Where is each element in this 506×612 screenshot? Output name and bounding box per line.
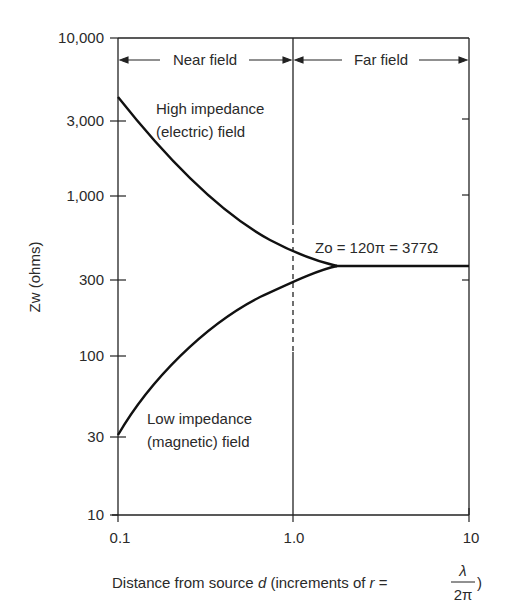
y-axis-label: Zw (ohms) xyxy=(26,242,43,313)
low-impedance-label-2: (magnetic) field xyxy=(147,433,250,450)
fraction-numerator: λ xyxy=(458,562,466,579)
y-tick-10: 10 xyxy=(87,506,104,523)
x-tick-1-0: 1.0 xyxy=(284,529,305,546)
low-impedance-label-1: Low impedance xyxy=(147,410,252,427)
svg-text:Distance from source d (increm: Distance from source d (increments of r … xyxy=(112,574,388,591)
far-field-label: Far field xyxy=(354,51,408,68)
arrow-left-icon xyxy=(295,57,303,63)
x-tick-10: 10 xyxy=(463,529,480,546)
arrow-left-icon xyxy=(120,57,128,63)
high-impedance-label-2: (electric) field xyxy=(156,123,245,140)
near-field-label: Near field xyxy=(173,51,237,68)
y-tick-30: 30 xyxy=(87,428,104,445)
xlabel-close: ) xyxy=(477,574,482,591)
x-axis-label: Distance from source d (increments of r … xyxy=(112,562,482,603)
y-tick-100: 100 xyxy=(79,347,104,364)
y-tick-labels: 10,000 3,000 1,000 300 100 30 10 xyxy=(58,29,104,523)
x-tick-0-1: 0.1 xyxy=(110,529,131,546)
y-tick-3000: 3,000 xyxy=(66,112,104,129)
xlabel-text: Distance from source xyxy=(112,574,258,591)
y-tick-300: 300 xyxy=(79,271,104,288)
zo-label: Zo = 120π = 377Ω xyxy=(315,239,438,256)
impedance-chart: 10,000 3,000 1,000 300 100 30 10 0.1 1.0… xyxy=(0,0,506,612)
arrow-right-icon xyxy=(283,57,291,63)
x-tick-labels: 0.1 1.0 10 xyxy=(110,529,480,546)
arrow-right-icon xyxy=(459,57,467,63)
y-tick-1000: 1,000 xyxy=(66,187,104,204)
high-impedance-label-1: High impedance xyxy=(156,100,264,117)
fraction-denominator: 2π xyxy=(454,586,473,603)
xlabel-eq: = xyxy=(375,574,388,591)
xlabel-paren: (increments of xyxy=(266,574,369,591)
y-tick-10000: 10,000 xyxy=(58,29,104,46)
